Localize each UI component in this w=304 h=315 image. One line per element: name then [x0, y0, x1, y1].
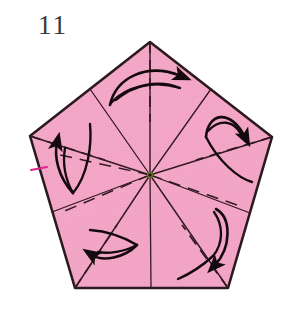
- origami-step-figure: 11: [0, 0, 304, 315]
- center-dot-core: [148, 173, 151, 176]
- pentagon-crease-diagram: [0, 0, 304, 315]
